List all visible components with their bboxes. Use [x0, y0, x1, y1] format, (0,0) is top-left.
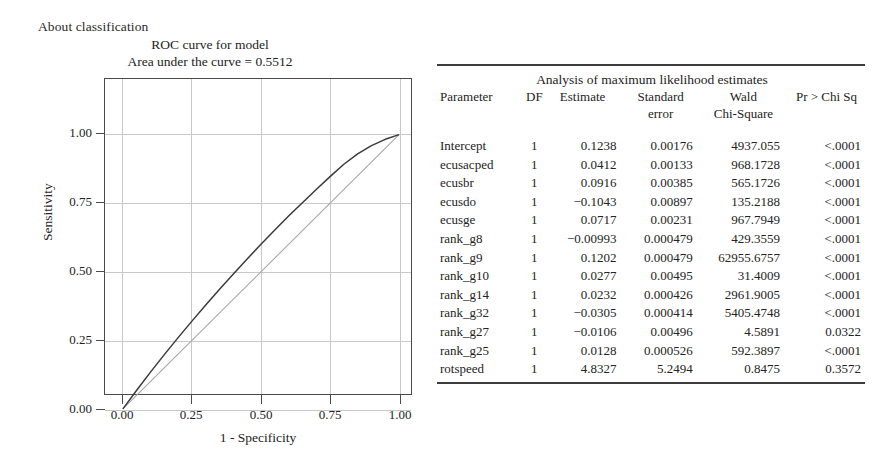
cell-wald-chi-square: 4937.055 [699, 132, 788, 156]
cell-parameter: rank_g25 [437, 342, 520, 361]
cell-pr-chi-sq: <.0001 [788, 342, 865, 361]
column-header-parameter: Parameter [437, 89, 520, 105]
column-header-estimate: Estimate [549, 89, 623, 105]
cell-df: 1 [520, 249, 549, 268]
cell-df: 1 [520, 174, 549, 193]
cell-wald-chi-square: 0.8475 [699, 360, 788, 379]
cell-estimate: −0.0305 [549, 304, 623, 323]
cell-parameter: rotspeed [437, 360, 520, 379]
column-subheader-df [520, 105, 549, 132]
column-header-pr-chi-sq: Pr > Chi Sq [788, 89, 865, 105]
cell-pr-chi-sq: <.0001 [788, 132, 865, 156]
cell-df: 1 [520, 342, 549, 361]
cell-parameter: ecusacped [437, 156, 520, 175]
cell-wald-chi-square: 968.1728 [699, 156, 788, 175]
cell-estimate: 0.0128 [549, 342, 623, 361]
gridline-h-0 [105, 410, 411, 411]
cell-standard-error: 5.2494 [622, 360, 698, 379]
table-row: rank_g910.12020.00047962955.6757<.0001 [437, 249, 865, 268]
cell-parameter: rank_g14 [437, 286, 520, 305]
maximum-likelihood-estimates-table: Analysis of maximum likelihood estimates… [437, 64, 867, 384]
table-row: ecusdo1−0.10430.00897135.2188<.0001 [437, 193, 865, 212]
column-subheader-estimate [549, 105, 623, 132]
cell-df: 1 [520, 360, 549, 379]
table-row: rank_g271−0.01060.004964.58910.0322 [437, 323, 865, 342]
cell-pr-chi-sq: <.0001 [788, 249, 865, 268]
table-row: Intercept10.12380.001764937.055<.0001 [437, 132, 865, 156]
table-row: ecusge10.07170.00231967.7949<.0001 [437, 211, 865, 230]
column-header-df: DF [520, 89, 549, 105]
cell-wald-chi-square: 2961.9005 [699, 286, 788, 305]
x-tick-mark-1 [191, 395, 192, 404]
chart-title: ROC curve for model [0, 36, 420, 53]
cell-standard-error: 0.00133 [622, 156, 698, 175]
cell-wald-chi-square: 31.4009 [699, 267, 788, 286]
roc-chart-figure: ROC curve for model Area under the curve… [0, 36, 430, 456]
cell-pr-chi-sq: <.0001 [788, 304, 865, 323]
cell-estimate: 0.0412 [549, 156, 623, 175]
reference-diagonal-line [123, 135, 399, 409]
cell-estimate: 4.8327 [549, 360, 623, 379]
cell-standard-error: 0.000526 [622, 342, 698, 361]
cell-pr-chi-sq: <.0001 [788, 211, 865, 230]
cell-parameter: rank_g8 [437, 230, 520, 249]
estimates-table: Parameter DF Estimate Standard Wald Pr >… [437, 89, 865, 378]
cell-standard-error: 0.000479 [622, 249, 698, 268]
cell-pr-chi-sq: <.0001 [788, 286, 865, 305]
cell-df: 1 [520, 132, 549, 156]
cell-pr-chi-sq: <.0001 [788, 267, 865, 286]
cell-estimate: −0.1043 [549, 193, 623, 212]
cell-pr-chi-sq: <.0001 [788, 156, 865, 175]
cell-wald-chi-square: 592.3897 [699, 342, 788, 361]
cell-df: 1 [520, 267, 549, 286]
cell-pr-chi-sq: 0.3572 [788, 360, 865, 379]
cell-df: 1 [520, 156, 549, 175]
cell-standard-error: 0.00231 [622, 211, 698, 230]
table-body: Intercept10.12380.001764937.055<.0001ecu… [437, 132, 865, 379]
roc-curve-svg [105, 79, 411, 394]
cell-pr-chi-sq: <.0001 [788, 193, 865, 212]
cell-standard-error: 0.000479 [622, 230, 698, 249]
cell-parameter: ecusbr [437, 174, 520, 193]
cell-standard-error: 0.000426 [622, 286, 698, 305]
table-row: rank_g1410.02320.0004262961.9005<.0001 [437, 286, 865, 305]
cell-wald-chi-square: 565.1726 [699, 174, 788, 193]
cell-parameter: rank_g32 [437, 304, 520, 323]
column-subheader-parameter [437, 105, 520, 132]
x-tick-mark-0 [122, 395, 123, 404]
table-row: rotspeed14.83275.24940.84750.3572 [437, 360, 865, 379]
table-head: Parameter DF Estimate Standard Wald Pr >… [437, 89, 865, 132]
cell-standard-error: 0.00385 [622, 174, 698, 193]
y-tick-label-4: 1.00 [38, 125, 92, 141]
table-header-row-2: error Chi-Square [437, 105, 865, 132]
cell-estimate: 0.1202 [549, 249, 623, 268]
column-subheader-pr [788, 105, 865, 132]
cell-wald-chi-square: 135.2188 [699, 193, 788, 212]
cell-estimate: −0.00993 [549, 230, 623, 249]
cell-pr-chi-sq: <.0001 [788, 174, 865, 193]
y-axis-title: Sensitivity [40, 142, 56, 282]
chart-title-block: ROC curve for model Area under the curve… [0, 36, 420, 70]
cell-df: 1 [520, 323, 549, 342]
cell-parameter: rank_g10 [437, 267, 520, 286]
cell-parameter: ecusdo [437, 193, 520, 212]
table-header-row-1: Parameter DF Estimate Standard Wald Pr >… [437, 89, 865, 105]
table-row: rank_g1010.02770.0049531.4009<.0001 [437, 267, 865, 286]
x-tick-mark-2 [261, 395, 262, 404]
cell-wald-chi-square: 5405.4748 [699, 304, 788, 323]
cell-wald-chi-square: 967.7949 [699, 211, 788, 230]
table-row: rank_g81−0.009930.000479429.3559<.0001 [437, 230, 865, 249]
cell-wald-chi-square: 62955.6757 [699, 249, 788, 268]
column-header-standard: Standard [622, 89, 698, 105]
cell-parameter: Intercept [437, 132, 520, 156]
cell-standard-error: 0.00897 [622, 193, 698, 212]
cell-df: 1 [520, 193, 549, 212]
cell-estimate: 0.0717 [549, 211, 623, 230]
cell-estimate: 0.1238 [549, 132, 623, 156]
cell-wald-chi-square: 429.3559 [699, 230, 788, 249]
x-axis-title: 1 - Specificity [104, 430, 412, 446]
x-tick-mark-3 [330, 395, 331, 404]
cell-standard-error: 0.00495 [622, 267, 698, 286]
table-row: rank_g321−0.03050.0004145405.4748<.0001 [437, 304, 865, 323]
cell-estimate: 0.0277 [549, 267, 623, 286]
